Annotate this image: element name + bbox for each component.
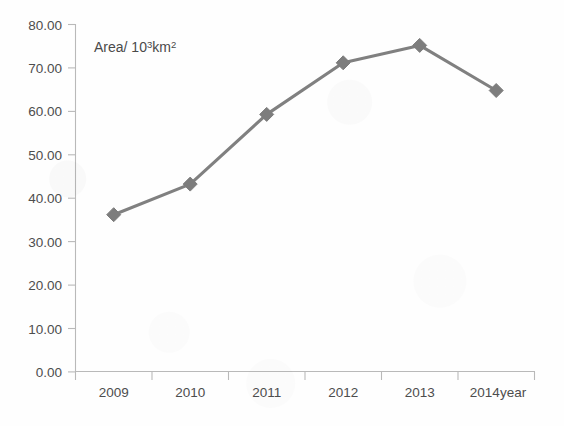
y-tick-label-60: 60.00 <box>28 104 62 119</box>
y-tick-label-30: 30.00 <box>28 235 62 250</box>
y-axis-unit-annotation: Area/ 103km2 <box>94 39 176 55</box>
line-chart: 80.00 70.00 60.00 50.00 40.00 30.00 20.0… <box>0 0 564 426</box>
unit-exponent-2: 2 <box>171 39 176 50</box>
unit-km: km <box>152 39 171 55</box>
y-tick-label-40: 40.00 <box>28 191 62 206</box>
y-tick-label-0: 0.00 <box>36 365 62 380</box>
data-point-2014 <box>489 84 503 98</box>
y-tick-label-80: 80.00 <box>28 18 62 33</box>
x-tick-label-2013: 2013 <box>405 385 435 400</box>
data-point-2009 <box>107 208 121 222</box>
x-tick-label-2012: 2012 <box>328 385 358 400</box>
x-axis-ticks <box>76 372 535 381</box>
x-tick-label-2014-year: 2014year <box>470 385 527 400</box>
y-tick-label-20: 20.00 <box>28 278 62 293</box>
y-tick-label-10: 10.00 <box>28 322 62 337</box>
y-tick-label-70: 70.00 <box>28 61 62 76</box>
unit-prefix: Area/ 10 <box>94 39 147 55</box>
x-tick-label-2011: 2011 <box>252 385 281 400</box>
series-line-area <box>114 45 497 214</box>
chart-page: 80.00 70.00 60.00 50.00 40.00 30.00 20.0… <box>0 0 564 426</box>
x-tick-label-2009: 2009 <box>99 385 129 400</box>
y-tick-label-50: 50.00 <box>28 148 62 163</box>
data-point-2013 <box>413 38 427 52</box>
x-tick-label-2010: 2010 <box>175 385 205 400</box>
y-axis-ticks <box>68 25 76 372</box>
